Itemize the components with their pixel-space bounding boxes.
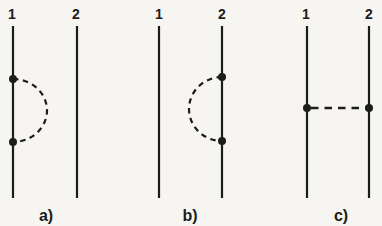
panel-b-line2-label: 2	[218, 6, 226, 22]
panel-b-line1-label: 1	[155, 6, 163, 22]
panel-c: 1 2 c)	[302, 6, 373, 224]
panel-b-vertex-top	[218, 73, 226, 81]
panel-a-line1-label: 1	[8, 6, 16, 22]
panel-a: 1 2 a)	[8, 6, 80, 224]
panel-c-caption: c)	[334, 207, 348, 224]
panel-a-self-energy-arc	[13, 79, 47, 142]
panel-a-line2-label: 2	[72, 6, 80, 22]
panel-c-vertex-right	[365, 104, 373, 112]
feynman-style-diagram: 1 2 a) 1 2 b) 1 2	[0, 0, 382, 226]
panel-b-vertex-bottom	[218, 137, 226, 145]
panel-c-line1-label: 1	[302, 6, 310, 22]
panel-c-line2-label: 2	[365, 6, 373, 22]
panel-b-self-energy-arc	[189, 77, 222, 141]
panel-b: 1 2 b)	[155, 6, 226, 224]
panel-c-vertex-left	[303, 104, 311, 112]
figure-canvas: 1 2 a) 1 2 b) 1 2	[0, 0, 382, 226]
panel-a-caption: a)	[39, 207, 53, 224]
panel-b-caption: b)	[182, 207, 197, 224]
panel-a-vertex-bottom	[9, 138, 17, 146]
panel-a-vertex-top	[9, 75, 17, 83]
